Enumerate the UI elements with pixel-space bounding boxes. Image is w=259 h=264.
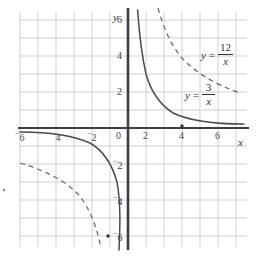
y-tick-label-minus4: −4	[113, 195, 123, 207]
x-tick-label-2: 2	[143, 131, 148, 141]
equation-equals-12: =	[208, 49, 216, 61]
fraction-denominator-3: x	[204, 96, 213, 107]
x-axis-label: x	[238, 137, 243, 148]
edge-mark	[3, 189, 6, 192]
y-axis-label: y	[113, 12, 118, 23]
y-tick-label-minus2: −2	[113, 159, 123, 171]
fraction-denominator-12: x	[221, 56, 230, 67]
fraction-3-over-x: 3 x	[202, 82, 215, 107]
equation-label-3-over-x: y = 3 x	[185, 82, 215, 107]
equation-lhs-3: y	[185, 89, 190, 101]
equation-label-12-over-x: y = 12 x	[201, 42, 233, 67]
fraction-12-over-x: 12 x	[218, 42, 233, 67]
x-tick-label-zero: 0	[116, 131, 121, 141]
y-tick-label-minus6: −6	[113, 231, 123, 243]
x-tick-label-minus2: −2	[87, 131, 97, 143]
point-markers	[106, 124, 183, 237]
equation-equals-3: =	[192, 89, 200, 101]
y-tick-label-4: 4	[117, 51, 122, 61]
curve-3-over-x-branch-q3	[20, 132, 120, 250]
x-tick-label-4: 4	[179, 131, 184, 141]
curve-12-over-x-branch-q3	[20, 163, 101, 248]
x-tick-label-minus6: −-66	[15, 131, 25, 143]
fraction-numerator-3: 3	[204, 82, 214, 93]
x-tick-label-minus4: −4	[51, 131, 61, 143]
y-tick-label-2: 2	[117, 87, 122, 97]
equation-lhs-12: y	[201, 49, 206, 61]
fraction-numerator-12: 12	[218, 42, 233, 53]
graph-figure: −-66 −4 −2 0 2 4 6 6 4 2 −2 −4 −6 y x y …	[0, 0, 259, 264]
point-marker-lower	[106, 234, 109, 237]
x-tick-label-6: 6	[215, 131, 220, 141]
coordinate-plane	[0, 0, 259, 264]
point-marker-x-3	[180, 124, 183, 127]
